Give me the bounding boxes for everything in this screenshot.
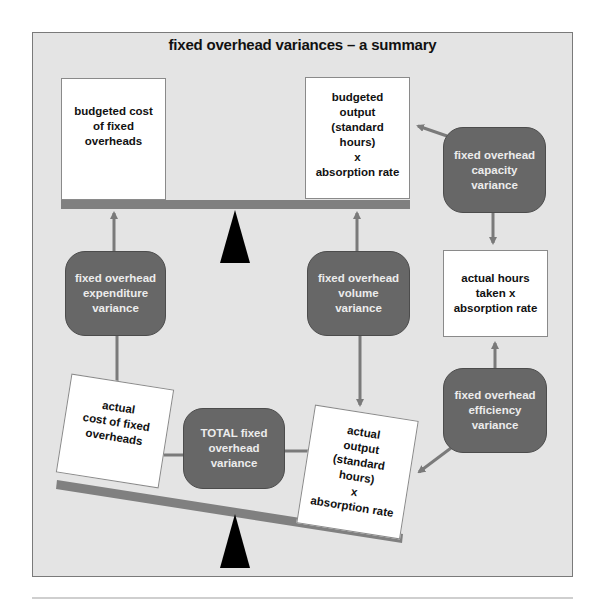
- bottom-fulcrum-icon: [220, 514, 250, 568]
- top-fulcrum-icon: [220, 210, 250, 263]
- total-variance-label: TOTAL fixed overhead variance: [200, 426, 267, 471]
- volume-variance-node: fixed overhead volume variance: [307, 251, 410, 336]
- arrow-capacity-to-budgeted-output: [418, 126, 447, 136]
- budgeted-output-box: budgeted output (standard hours) x absor…: [305, 77, 410, 199]
- expenditure-variance-node: fixed overhead expenditure variance: [65, 251, 166, 336]
- actual-cost-label: actual cost of fixed overheads: [74, 395, 153, 485]
- expenditure-variance-label: fixed overhead expenditure variance: [75, 271, 156, 316]
- actual-output-label: actual output (standard hours) x absorpt…: [307, 419, 406, 537]
- budgeted-cost-label: budgeted cost of fixed overheads: [74, 104, 153, 199]
- actual-hours-label: actual hours taken x absorption rate: [454, 271, 538, 316]
- actual-output-box: actual output (standard hours) x absorpt…: [296, 405, 418, 540]
- efficiency-variance-node: fixed overhead efficiency variance: [443, 368, 547, 453]
- page-divider: [32, 597, 573, 599]
- capacity-variance-node: fixed overhead capacity variance: [443, 127, 546, 213]
- budgeted-cost-box: budgeted cost of fixed overheads: [61, 78, 166, 200]
- volume-variance-label: fixed overhead volume variance: [318, 271, 399, 316]
- total-variance-node: TOTAL fixed overhead variance: [183, 408, 285, 489]
- top-balance-beam: [61, 200, 410, 209]
- actual-hours-box: actual hours taken x absorption rate: [443, 250, 548, 337]
- actual-cost-box: actual cost of fixed overheads: [56, 373, 174, 488]
- efficiency-variance-label: fixed overhead efficiency variance: [454, 388, 535, 433]
- budgeted-output-label: budgeted output (standard hours) x absor…: [316, 90, 400, 198]
- arrow-efficiency-to-actual-output: [419, 448, 451, 472]
- capacity-variance-label: fixed overhead capacity variance: [454, 148, 535, 193]
